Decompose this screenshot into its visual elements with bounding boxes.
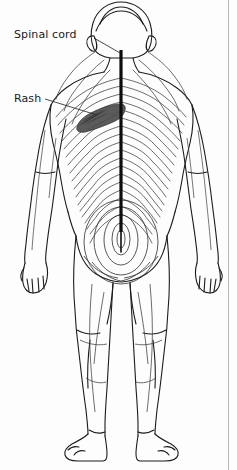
skull-inner-contour [100, 7, 143, 24]
right-gutter [229, 0, 237, 470]
right-ankle-line [138, 430, 154, 433]
shoulder-left [51, 72, 104, 105]
leader-line-spinal-cord [94, 38, 120, 53]
right-knee-crease [143, 330, 166, 334]
left-leg-outer [74, 236, 88, 434]
hip-left [68, 212, 76, 236]
shoulder-right [139, 72, 192, 105]
label-rash: Rash [14, 93, 41, 104]
right-calf-line [153, 340, 155, 388]
right-leg-outer [155, 236, 169, 434]
anatomical-figure: Spinal cord Rash [0, 0, 237, 470]
hip-right [167, 212, 175, 236]
skull-crown-line [96, 11, 147, 31]
left-elbow-crease [36, 172, 55, 174]
left-toes [68, 447, 85, 455]
head-outline [91, 2, 152, 58]
left-knee-crease [77, 330, 100, 334]
label-spinal-cord: Spinal cord [14, 29, 76, 40]
neck-left [104, 58, 110, 72]
left-ankle-line [89, 430, 105, 433]
right-leg-inner [130, 282, 138, 436]
right-toes [158, 447, 175, 455]
leg-dermatome-lines [80, 284, 162, 412]
right-elbow-crease [188, 172, 207, 174]
right-border-line [228, 0, 229, 470]
body-diagram [0, 0, 237, 470]
left-leg-inner [105, 282, 113, 436]
neck-right [133, 58, 139, 72]
rash-patch [77, 104, 125, 132]
